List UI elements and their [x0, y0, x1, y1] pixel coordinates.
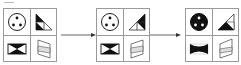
- arrow-right-icon: [61, 34, 97, 36]
- figure-panel-3: [185, 8, 239, 62]
- trapezoid-striped-icon: [31, 36, 57, 62]
- circle-three-dots-icon: [97, 9, 123, 35]
- split-triangle-icon: [213, 9, 239, 35]
- circle-three-dots-filled-icon: [186, 9, 212, 35]
- trapezoid-striped-icon: [213, 36, 239, 62]
- figure-panel-1: [3, 8, 57, 62]
- bowtie-rectangle-icon: [4, 36, 30, 62]
- corner-mark: [4, 2, 14, 3]
- split-triangle-icon: [124, 9, 150, 35]
- circle-three-dots-icon: [4, 9, 30, 35]
- figure-panel-2: [96, 8, 150, 62]
- arrow-right-icon: [150, 34, 182, 36]
- bowtie-rounded-icon: [186, 36, 212, 62]
- split-triangle-icon: [31, 9, 57, 35]
- trapezoid-striped-icon: [124, 36, 150, 62]
- bowtie-rectangle-icon: [97, 36, 123, 62]
